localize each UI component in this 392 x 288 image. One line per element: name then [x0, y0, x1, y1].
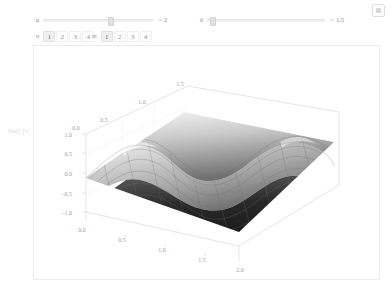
slider-b-equals: = [330, 16, 334, 23]
graphics-panel[interactable]: 1.0 0.5 0.0 -0.5 -1.0 0.5 1.0 1.5 [33, 45, 380, 280]
svg-text:1.5: 1.5 [176, 81, 184, 87]
svg-text:1.0: 1.0 [65, 132, 73, 138]
svg-text:0.0: 0.0 [65, 171, 73, 177]
surface-plot-svg: 1.0 0.5 0.0 -0.5 -1.0 0.5 1.0 1.5 [34, 46, 379, 279]
setter-label-n: n [36, 33, 39, 40]
x-axis-ticks: 0.0 0.5 1.0 1.5 2.0 [78, 227, 244, 273]
slider-a-track[interactable] [43, 19, 153, 22]
slider-b-handle[interactable] [210, 17, 216, 26]
svg-text:0.0: 0.0 [78, 227, 86, 233]
slider-b-track[interactable] [207, 19, 325, 22]
setter-n-option-2[interactable]: 2 [56, 31, 68, 42]
slider-label-b: b [200, 17, 203, 24]
slider-a-value: =2 [158, 17, 167, 24]
setter-label-m: m [92, 33, 97, 40]
slider-control-b: b =1.5 [200, 13, 360, 27]
setter-bar-n: 1 2 3 4 [43, 31, 95, 42]
setter-bar-m: 1 2 3 4 [101, 31, 153, 42]
z-axis-ticks: 1.0 0.5 0.0 -0.5 -1.0 [63, 132, 87, 216]
slider-a-handle[interactable] [108, 17, 114, 26]
setter-m-option-1[interactable]: 1 [101, 31, 113, 42]
slider-b-value-text: 1.5 [336, 16, 344, 23]
setter-n-option-1[interactable]: 1 [43, 31, 55, 42]
svg-text:0.5: 0.5 [65, 151, 73, 157]
setter-controls-row: n 1 2 3 4 m 1 2 3 4 [0, 29, 392, 43]
svg-text:0.5: 0.5 [118, 237, 126, 243]
manipulate-output: a =2 b =1.5 n 1 2 3 4 [0, 0, 392, 288]
svg-text:1.0: 1.0 [138, 99, 146, 105]
svg-text:-1.0: -1.0 [63, 210, 73, 216]
surface-plot[interactable]: 1.0 0.5 0.0 -0.5 -1.0 0.5 1.0 1.5 [34, 46, 379, 279]
output-label: Out[ ]= [8, 128, 29, 134]
setter-control-n: n 1 2 3 4 [36, 29, 95, 43]
slider-b-value: =1.5 [330, 17, 344, 24]
setter-m-option-4[interactable]: 4 [140, 31, 152, 42]
slider-a-value-text: 2 [164, 16, 167, 23]
svg-text:2.0: 2.0 [236, 267, 244, 273]
slider-control-a: a =2 [36, 13, 186, 27]
slider-a-equals: = [158, 16, 162, 23]
slider-controls-row: a =2 b =1.5 [0, 13, 392, 27]
slider-a[interactable] [43, 15, 153, 25]
svg-text:1.5: 1.5 [198, 257, 206, 263]
setter-m-option-3[interactable]: 3 [127, 31, 139, 42]
setter-m-option-2[interactable]: 2 [114, 31, 126, 42]
svg-text:0.5: 0.5 [100, 117, 108, 123]
svg-text:-0.5: -0.5 [63, 191, 73, 197]
setter-control-m: m 1 2 3 4 [92, 29, 153, 43]
slider-label-a: a [36, 17, 39, 24]
setter-n-option-3[interactable]: 3 [69, 31, 81, 42]
slider-b[interactable] [207, 15, 325, 25]
svg-text:1.0: 1.0 [158, 247, 166, 253]
svg-text:0.0: 0.0 [72, 125, 80, 131]
